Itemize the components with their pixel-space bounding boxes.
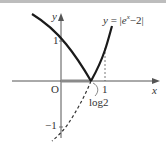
equation-label: y = |ex−2| [103, 14, 144, 26]
y-axis-arrow-icon [58, 13, 64, 21]
y-tick-neg-one-label: −1 [45, 120, 57, 131]
origin-label: O [51, 84, 59, 95]
y-tick-one-label: 1 [53, 35, 59, 46]
log2-leader-line [93, 83, 98, 96]
equation-eq: = | [108, 14, 122, 26]
curve-right-branch [91, 26, 112, 81]
log2-label: log2 [89, 97, 109, 108]
x-tick-one-label: 1 [102, 84, 108, 95]
equation-rest: −2| [130, 14, 144, 26]
y-axis-label: y [52, 11, 57, 22]
x-axis-label: x [152, 85, 157, 96]
